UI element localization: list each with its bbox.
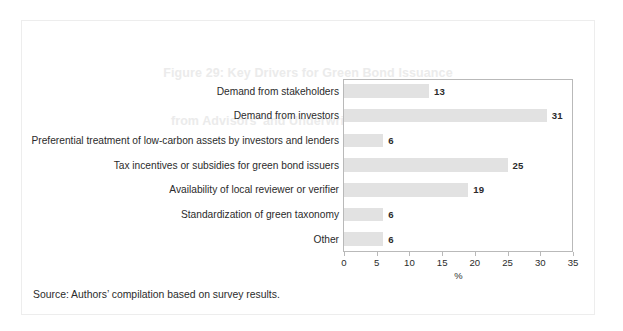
- bar: [344, 134, 383, 148]
- figure-root: Figure 29: Key Drivers for Green Bond Is…: [0, 0, 623, 331]
- chart-category-rows: Demand from stakeholders13Demand from in…: [0, 79, 623, 252]
- chart-category-row: Preferential treatment of low-carbon ass…: [0, 128, 623, 153]
- bar-value-label: 19: [473, 183, 484, 196]
- x-axis-tick-label: 0: [329, 257, 359, 269]
- bar-value-label: 6: [388, 233, 393, 246]
- category-label: Other: [24, 233, 339, 246]
- category-label: Preferential treatment of low-carbon ass…: [24, 134, 339, 147]
- chart-category-row: Availability of local reviewer or verifi…: [0, 178, 623, 203]
- x-axis-tick-mark: [508, 252, 509, 256]
- chart-category-row: Demand from investors31: [0, 104, 623, 129]
- category-label: Demand from stakeholders: [24, 85, 339, 98]
- category-label: Demand from investors: [24, 109, 339, 122]
- x-axis-tick-mark: [475, 252, 476, 256]
- x-axis-tick-label: 15: [427, 257, 457, 269]
- category-label: Availability of local reviewer or verifi…: [24, 183, 339, 196]
- chart-category-row: Standardization of green taxonomy6: [0, 203, 623, 228]
- x-axis-tick-label: 30: [525, 257, 555, 269]
- x-axis-tick-label: 10: [394, 257, 424, 269]
- x-axis-tick-mark: [377, 252, 378, 256]
- category-label: Standardization of green taxonomy: [24, 208, 339, 221]
- source-note: Source: Authors’ compilation based on su…: [33, 288, 280, 302]
- bar-value-label: 6: [388, 208, 393, 221]
- chart-category-row: Demand from stakeholders13: [0, 79, 623, 104]
- x-axis-tick-mark: [442, 252, 443, 256]
- x-axis-tick-label: 5: [362, 257, 392, 269]
- bar-value-label: 6: [388, 134, 393, 147]
- x-axis-tick-mark: [540, 252, 541, 256]
- chart-category-row: Other6: [0, 227, 623, 252]
- bar-value-label: 25: [513, 159, 524, 172]
- bar: [344, 208, 383, 222]
- x-axis-tick-label: 35: [558, 257, 588, 269]
- bar: [344, 109, 547, 123]
- bar-value-label: 31: [552, 109, 563, 122]
- x-axis-tick-mark: [409, 252, 410, 256]
- bar-value-label: 13: [434, 85, 445, 98]
- bar: [344, 158, 508, 172]
- category-label: Tax incentives or subsidies for green bo…: [24, 159, 339, 172]
- chart-category-row: Tax incentives or subsidies for green bo…: [0, 153, 623, 178]
- x-axis-tick-mark: [573, 252, 574, 256]
- bar: [344, 232, 383, 246]
- bar: [344, 183, 468, 197]
- x-axis-title: %: [343, 270, 574, 282]
- x-axis-tick-mark: [344, 252, 345, 256]
- x-axis-tick-label: 20: [460, 257, 490, 269]
- x-axis-tick-label: 25: [493, 257, 523, 269]
- bar: [344, 84, 429, 98]
